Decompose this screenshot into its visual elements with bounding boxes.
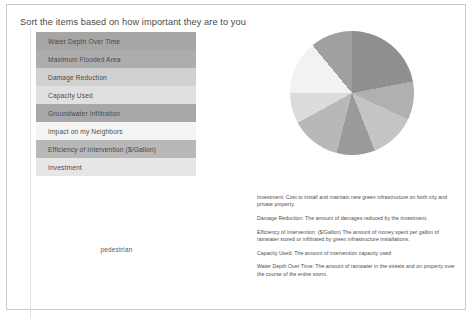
sort-item[interactable]: Impact on my Neighbors	[36, 122, 196, 140]
criteria-descriptions: Investment: Cost to install and maintain…	[257, 194, 462, 278]
pie-chart	[290, 31, 414, 155]
sort-item-label: Capacity Used	[48, 92, 93, 99]
sort-item[interactable]: Groundwater Infiltration	[36, 104, 196, 122]
panel-divider	[30, 28, 31, 318]
sort-item[interactable]: Capacity Used	[36, 86, 196, 104]
description-paragraph: Water Depth Over Time: The amount of rai…	[257, 263, 462, 278]
sortable-list[interactable]: Water Depth Over TimeMaximum Flooded Are…	[36, 32, 196, 176]
page-root: Sort the items based on how important th…	[0, 0, 474, 320]
sort-item-label: Water Depth Over Time	[48, 38, 120, 45]
sort-item[interactable]: Water Depth Over Time	[36, 32, 196, 50]
sort-item-label: Impact on my Neighbors	[48, 128, 123, 135]
sort-item[interactable]: Damage Reduction	[36, 68, 196, 86]
sort-item[interactable]: Efficiency of Intervention ($/Gallon)	[36, 140, 196, 158]
description-paragraph: Capacity Used: The amount of interventio…	[257, 250, 462, 257]
pie-chart-canvas	[290, 31, 414, 155]
description-paragraph: Investment: Cost to install and maintain…	[257, 194, 462, 209]
description-paragraph: Efficiency of Intervention: ($/Gallon) T…	[257, 229, 462, 244]
sort-panel: Sort the items based on how important th…	[14, 10, 219, 314]
pedestrian-label: pedestrian	[14, 246, 219, 253]
page-title: Sort the items based on how important th…	[20, 17, 246, 28]
sort-item-label: Damage Reduction	[48, 74, 107, 81]
sort-item-label: Groundwater Infiltration	[48, 110, 120, 117]
sort-item-label: Efficiency of Intervention ($/Gallon)	[48, 146, 156, 153]
sort-item[interactable]: Investment	[36, 158, 196, 176]
description-paragraph: Damage Reduction: The amount of damages …	[257, 215, 462, 222]
sort-item-label: Investment	[48, 164, 82, 171]
sort-item-label: Maximum Flooded Area	[48, 56, 121, 63]
sort-item[interactable]: Maximum Flooded Area	[36, 50, 196, 68]
app-card: Sort the items based on how important th…	[6, 4, 466, 310]
